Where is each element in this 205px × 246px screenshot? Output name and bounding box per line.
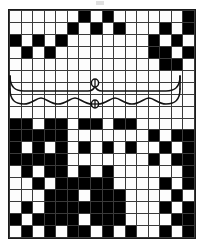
- pattern-cell-empty: [137, 47, 148, 58]
- pattern-cell-empty: [160, 154, 171, 165]
- pattern-cell-empty: [183, 71, 194, 82]
- pattern-cell-filled: [172, 35, 183, 46]
- pattern-cell-empty: [45, 83, 56, 94]
- pattern-cell-empty: [56, 59, 67, 70]
- pattern-cell-empty: [172, 178, 183, 189]
- pattern-cell-filled: [33, 130, 44, 141]
- pattern-cell-empty: [149, 166, 160, 177]
- pattern-cell-filled: [103, 11, 114, 22]
- pattern-cell-empty: [103, 23, 114, 34]
- pattern-cell-empty: [149, 95, 160, 106]
- pattern-cell-filled: [56, 202, 67, 213]
- pattern-cell-empty: [160, 11, 171, 22]
- pattern-cell-filled: [56, 178, 67, 189]
- pattern-cell-empty: [103, 59, 114, 70]
- pattern-cell-empty: [79, 214, 90, 225]
- pattern-cell-empty: [172, 83, 183, 94]
- pattern-cell-filled: [183, 47, 194, 58]
- pattern-cell-empty: [56, 11, 67, 22]
- pattern-cell-empty: [137, 178, 148, 189]
- pattern-cell-empty: [114, 130, 125, 141]
- pattern-cell-empty: [160, 35, 171, 46]
- pattern-cell-empty: [79, 107, 90, 118]
- pattern-cell-empty: [22, 23, 33, 34]
- pattern-cell-empty: [137, 35, 148, 46]
- pattern-cell-empty: [149, 226, 160, 237]
- pattern-cell-empty: [172, 11, 183, 22]
- pattern-cell-empty: [114, 226, 125, 237]
- pattern-cell-empty: [33, 226, 44, 237]
- pattern-cell-empty: [137, 83, 148, 94]
- pattern-cell-filled: [103, 166, 114, 177]
- pattern-cell-empty: [172, 95, 183, 106]
- pattern-cell-empty: [103, 130, 114, 141]
- pattern-cell-empty: [114, 71, 125, 82]
- pattern-cell-empty: [103, 119, 114, 130]
- pattern-cell-filled: [172, 59, 183, 70]
- pattern-cell-empty: [114, 107, 125, 118]
- pattern-cell-empty: [91, 83, 102, 94]
- pattern-cell-empty: [149, 11, 160, 22]
- pattern-cell-empty: [137, 95, 148, 106]
- pattern-cell-filled: [10, 214, 21, 225]
- pattern-cell-filled: [33, 142, 44, 153]
- pattern-cell-empty: [137, 214, 148, 225]
- pattern-grid: [8, 9, 196, 239]
- pattern-cell-empty: [45, 178, 56, 189]
- pattern-cell-filled: [91, 23, 102, 34]
- pattern-cell-empty: [137, 107, 148, 118]
- pattern-cell-empty: [91, 107, 102, 118]
- pattern-cell-empty: [79, 71, 90, 82]
- pattern-cell-filled: [79, 178, 90, 189]
- pattern-cell-empty: [22, 107, 33, 118]
- pattern-cell-empty: [22, 71, 33, 82]
- pattern-cell-empty: [103, 47, 114, 58]
- pattern-cell-filled: [183, 142, 194, 153]
- pattern-cell-empty: [137, 166, 148, 177]
- pattern-cell-filled: [172, 154, 183, 165]
- pattern-cell-filled: [103, 202, 114, 213]
- pattern-cell-empty: [56, 226, 67, 237]
- pattern-cell-empty: [149, 107, 160, 118]
- pattern-cell-empty: [10, 190, 21, 201]
- pattern-cell-filled: [33, 214, 44, 225]
- pattern-cell-empty: [45, 59, 56, 70]
- pattern-cell-empty: [137, 71, 148, 82]
- pattern-cell-filled: [183, 214, 194, 225]
- pattern-cell-empty: [126, 154, 137, 165]
- pattern-cell-empty: [79, 95, 90, 106]
- pattern-cell-filled: [22, 166, 33, 177]
- pattern-cell-filled: [33, 178, 44, 189]
- pattern-cell-empty: [172, 47, 183, 58]
- pattern-cell-empty: [160, 214, 171, 225]
- pattern-cell-empty: [172, 23, 183, 34]
- pattern-cell-filled: [10, 142, 21, 153]
- pattern-cell-empty: [10, 23, 21, 34]
- pattern-cell-empty: [91, 154, 102, 165]
- pattern-cell-empty: [149, 142, 160, 153]
- scan-artifact: [96, 1, 104, 5]
- pattern-cell-filled: [126, 142, 137, 153]
- pattern-cell-empty: [68, 142, 79, 153]
- pattern-cell-empty: [91, 142, 102, 153]
- pattern-cell-empty: [10, 166, 21, 177]
- pattern-cell-empty: [126, 47, 137, 58]
- pattern-cell-empty: [114, 59, 125, 70]
- pattern-cell-filled: [91, 119, 102, 130]
- pattern-cell-empty: [160, 119, 171, 130]
- pattern-cell-empty: [56, 95, 67, 106]
- pattern-cell-empty: [137, 226, 148, 237]
- pattern-cell-empty: [183, 83, 194, 94]
- pattern-cell-empty: [172, 142, 183, 153]
- pattern-cell-filled: [183, 226, 194, 237]
- pattern-cell-empty: [91, 130, 102, 141]
- pattern-cell-empty: [160, 83, 171, 94]
- pattern-cell-filled: [126, 226, 137, 237]
- pattern-cell-empty: [114, 178, 125, 189]
- pattern-cell-empty: [33, 190, 44, 201]
- pattern-cell-empty: [114, 83, 125, 94]
- pattern-cell-empty: [56, 71, 67, 82]
- pattern-cell-filled: [126, 119, 137, 130]
- pattern-cell-empty: [10, 107, 21, 118]
- pattern-cell-filled: [56, 166, 67, 177]
